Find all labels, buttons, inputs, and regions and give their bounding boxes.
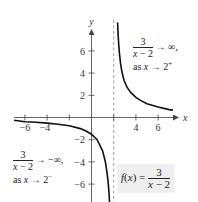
- annotation-limit-right: 3 x − 2 → ∞, as x → 2+: [133, 36, 178, 72]
- y-tick-label-2: 2: [80, 90, 85, 101]
- y-tick-label-neg2: −2: [74, 134, 85, 145]
- as-text: as: [13, 174, 24, 185]
- x-tick-label-6: 6: [156, 122, 161, 133]
- y-tick-label-4: 4: [80, 68, 85, 79]
- numerator: 3: [13, 149, 33, 161]
- side-sup: −: [48, 173, 52, 181]
- y-tick-label-6: 6: [80, 46, 85, 57]
- denominator: x − 2: [148, 179, 170, 190]
- approach-text: → 2: [148, 61, 168, 72]
- annotation-limit-left: 3 x − 2 → −∞, as x → 2−: [13, 149, 63, 185]
- y-axis-label: y: [88, 16, 94, 27]
- side-sup: +: [168, 60, 172, 68]
- approach-text: → 2: [28, 174, 48, 185]
- y-tick-label-neg6: −6: [74, 179, 85, 190]
- denominator: x − 2: [13, 161, 33, 172]
- fraction: 3 x − 2: [13, 149, 33, 172]
- numerator: 3: [133, 36, 153, 48]
- den-rest: − 2: [153, 178, 170, 190]
- y-tick-label-neg4: −4: [74, 157, 85, 168]
- fraction: 3 x − 2: [148, 167, 170, 190]
- as-text: as: [133, 61, 144, 72]
- function-label: f(x) = 3 x − 2: [117, 164, 174, 193]
- den-rest: − 2: [17, 161, 33, 172]
- paren-close-eq: ) =: [133, 171, 148, 183]
- x-tick-label-4: 4: [133, 122, 138, 133]
- den-rest: − 2: [137, 48, 153, 59]
- limit-condition: as x → 2−: [13, 174, 63, 185]
- x-axis-label: x: [182, 112, 188, 123]
- x-tick-label-neg6: −6: [20, 122, 31, 133]
- denominator: x − 2: [133, 48, 153, 59]
- limit-condition: as x → 2+: [133, 61, 178, 72]
- limit-arrow-text: → −∞,: [33, 154, 63, 165]
- limit-arrow-text: → ∞,: [153, 41, 178, 52]
- fraction: 3 x − 2: [133, 36, 153, 59]
